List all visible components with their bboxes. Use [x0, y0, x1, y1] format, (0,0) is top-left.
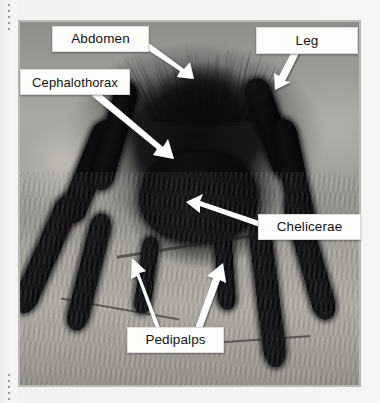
dotted-margin-guide-bottom: [8, 374, 10, 400]
label-leg[interactable]: Leg: [256, 27, 358, 54]
label-cephalothorax[interactable]: Cephalothorax: [20, 69, 130, 95]
label-pedipalps[interactable]: Pedipalps: [127, 327, 224, 353]
label-chelicerae[interactable]: Chelicerae: [258, 214, 361, 240]
dotted-margin-guide-top: [8, 4, 10, 30]
label-abdomen[interactable]: Abdomen: [52, 26, 149, 52]
page-canvas: Abdomen Leg Cephalothorax Chelicerae Ped…: [0, 0, 380, 403]
